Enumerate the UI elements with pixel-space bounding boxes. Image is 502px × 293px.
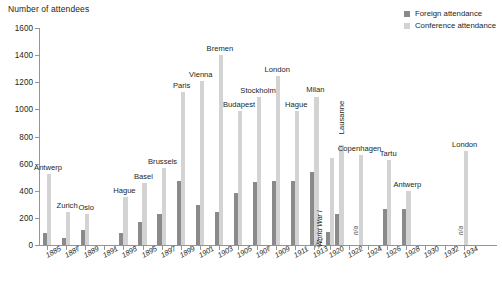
plot-area bbox=[39, 28, 494, 245]
bar-conference-attendance bbox=[387, 160, 391, 245]
bar-city-label: Basel bbox=[134, 172, 153, 181]
bar-group bbox=[119, 28, 127, 245]
bar-city-label: Tartu bbox=[380, 149, 397, 158]
x-tick-mark bbox=[152, 246, 153, 250]
bar-city-label: Hague bbox=[113, 186, 135, 195]
bar-conference-attendance bbox=[257, 97, 261, 245]
y-tick-label: 1000 bbox=[15, 105, 33, 114]
x-tick-mark bbox=[133, 246, 134, 250]
x-tick-mark bbox=[435, 246, 436, 250]
bar-conference-attendance bbox=[181, 92, 185, 245]
bar-group bbox=[234, 28, 242, 245]
chart-legend: Foreign attendance Conference attendance bbox=[404, 9, 496, 33]
x-tick-mark bbox=[378, 246, 379, 250]
x-tick-mark bbox=[340, 246, 341, 250]
world-war-annotation: World War I bbox=[316, 210, 323, 247]
bar-conference-attendance bbox=[66, 212, 70, 245]
bar-conference-attendance bbox=[276, 76, 280, 245]
bar-group bbox=[383, 28, 391, 245]
bar-conference-attendance bbox=[330, 158, 334, 245]
x-tick-mark bbox=[397, 246, 398, 250]
bar-group bbox=[196, 28, 204, 245]
bar-city-label: London bbox=[452, 140, 477, 149]
bar-city-label: Lausanne bbox=[336, 100, 345, 133]
y-axis-title: Number of attendees bbox=[8, 4, 89, 14]
bar-conference-attendance bbox=[47, 174, 51, 245]
bar-city-label: Zurich bbox=[57, 201, 78, 210]
x-tick-mark bbox=[359, 246, 360, 250]
attendance-bar-chart: Number of attendees 02004006008001000120… bbox=[0, 0, 502, 293]
bar-group bbox=[459, 28, 467, 245]
na-label: n/a bbox=[351, 226, 358, 235]
bar-conference-attendance bbox=[406, 191, 410, 245]
bar-conference-attendance bbox=[219, 55, 223, 245]
legend-item-foreign: Foreign attendance bbox=[404, 9, 496, 18]
x-tick-mark bbox=[454, 246, 455, 250]
bar-city-label: Antwerp bbox=[393, 180, 421, 189]
x-tick-mark bbox=[267, 246, 268, 250]
bar-city-label: Bremen bbox=[207, 44, 234, 53]
bar-conference-attendance bbox=[85, 214, 89, 245]
bar-conference-attendance bbox=[339, 145, 343, 245]
bar-group bbox=[272, 28, 280, 245]
y-tick-label: 200 bbox=[19, 213, 33, 222]
bar-city-label: Hague bbox=[285, 100, 307, 109]
legend-swatch-conference-icon bbox=[404, 23, 410, 29]
x-tick-mark bbox=[190, 246, 191, 250]
bar-conference-attendance bbox=[238, 111, 242, 245]
bar-city-label: Stockholm bbox=[240, 86, 275, 95]
na-label: n/a bbox=[456, 226, 463, 235]
x-tick-mark bbox=[286, 246, 287, 250]
bar-conference-attendance bbox=[142, 183, 146, 245]
bar-city-label: Vienna bbox=[189, 70, 213, 79]
bar-group bbox=[138, 28, 146, 245]
bar-city-label: London bbox=[265, 65, 290, 74]
bar-group bbox=[43, 28, 51, 245]
y-tick-label: 600 bbox=[19, 159, 33, 168]
y-tick-mark bbox=[35, 245, 39, 246]
bar-conference-attendance bbox=[359, 155, 363, 245]
bar-city-label: Copenhagen bbox=[338, 144, 382, 153]
bar-city-label: Paris bbox=[173, 81, 190, 90]
bar-city-label: Antwerp bbox=[34, 163, 62, 172]
bar-city-label: Budapest bbox=[223, 100, 255, 109]
y-tick-label: 800 bbox=[19, 132, 33, 141]
bar-group bbox=[354, 28, 362, 245]
x-tick-mark bbox=[95, 246, 96, 250]
x-tick-mark bbox=[416, 246, 417, 250]
x-tick-mark bbox=[305, 246, 306, 250]
bar-group bbox=[253, 28, 261, 245]
legend-swatch-foreign-icon bbox=[404, 11, 410, 17]
x-tick-mark bbox=[76, 246, 77, 250]
y-tick-label: 1200 bbox=[15, 78, 33, 87]
bar-conference-attendance bbox=[295, 111, 299, 245]
y-tick-label: 1600 bbox=[15, 24, 33, 33]
x-tick-mark bbox=[114, 246, 115, 250]
bar-conference-attendance bbox=[200, 81, 204, 245]
bar-conference-attendance bbox=[162, 168, 166, 245]
x-tick-mark bbox=[171, 246, 172, 250]
legend-label-foreign: Foreign attendance bbox=[415, 9, 482, 18]
y-tick-label: 400 bbox=[19, 186, 33, 195]
legend-item-conference: Conference attendance bbox=[404, 21, 496, 30]
y-tick-label: 1400 bbox=[15, 51, 33, 60]
bar-group bbox=[402, 28, 410, 245]
bar-conference-attendance bbox=[464, 151, 468, 245]
bar-group bbox=[326, 28, 334, 245]
bar-group bbox=[62, 28, 70, 245]
bar-city-label: Brussels bbox=[148, 157, 177, 166]
x-tick-mark bbox=[228, 246, 229, 250]
bar-group bbox=[215, 28, 223, 245]
bar-group bbox=[177, 28, 185, 245]
y-tick-label: 0 bbox=[28, 241, 33, 250]
bar-group bbox=[335, 28, 343, 245]
x-tick-mark bbox=[248, 246, 249, 250]
x-tick-mark bbox=[209, 246, 210, 250]
bar-group bbox=[291, 28, 299, 245]
legend-label-conference: Conference attendance bbox=[415, 21, 496, 30]
bar-city-label: Oslo bbox=[78, 203, 94, 212]
bar-city-label: Milan bbox=[306, 85, 324, 94]
x-tick-mark bbox=[57, 246, 58, 250]
bar-group bbox=[157, 28, 165, 245]
bar-conference-attendance bbox=[123, 197, 127, 245]
